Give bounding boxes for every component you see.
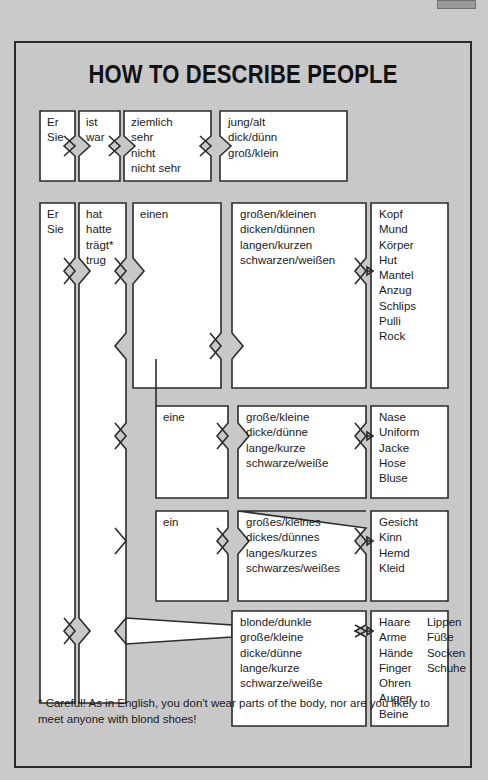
row4-article-text: ein bbox=[163, 515, 178, 530]
top-corner-tab bbox=[437, 0, 476, 9]
row4-noun-text: Gesicht Kinn Hemd Kleid bbox=[379, 515, 418, 576]
row3-noun-text: Nase Uniform Jacke Hose Bluse bbox=[379, 410, 419, 486]
row2-noun-text: Kopf Mund Körper Hut Mantel Anzug Schlip… bbox=[379, 207, 416, 345]
row2-article-text: einen bbox=[140, 207, 168, 222]
shared-verb-text: hat hatte trägt* trug bbox=[86, 207, 114, 268]
row2-article-box bbox=[133, 203, 221, 388]
footnote-text: * Careful! As in English, you don't wear… bbox=[38, 695, 450, 727]
row1-verb-text: ist war bbox=[86, 115, 105, 146]
shared-verb-box bbox=[79, 203, 126, 703]
plural-branch-arrow bbox=[126, 618, 232, 644]
row4-adjective-text: großes/kleines dickes/dünnes langes/kurz… bbox=[246, 515, 340, 576]
row3-article-text: eine bbox=[163, 410, 185, 425]
row3-adjective-text: große/kleine dicke/dünne lange/kurze sch… bbox=[246, 410, 328, 471]
row1-adjective-text: jung/alt dick/dünn groß/klein bbox=[228, 115, 279, 161]
shared-subject-text: Er Sie bbox=[47, 207, 64, 238]
row1-degree-text: ziemlich sehr nicht nicht sehr bbox=[131, 115, 181, 176]
row5-adjective-text: blonde/dunkle große/kleine dicke/dünne l… bbox=[240, 615, 322, 691]
worksheet-frame: HOW TO DESCRIBE PEOPLE bbox=[14, 41, 472, 768]
row2-adjective-text: großen/kleinen dicken/dünnen langen/kurz… bbox=[240, 207, 335, 268]
row1-subject-text: Er Sie bbox=[47, 115, 64, 146]
